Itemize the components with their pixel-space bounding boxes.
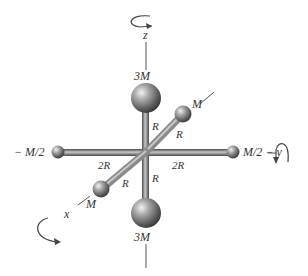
sphere-upper-right-M	[175, 106, 192, 123]
rigid-body-diagram: z x 3M 3M − M/2 M/2 − y M M R R R R 2R 2…	[0, 0, 308, 276]
x-axis-label: x	[64, 208, 69, 220]
sphere-bottom-3M	[131, 198, 161, 228]
mass-label-upper-right: M	[192, 98, 202, 110]
rod-label-bottom: R	[152, 173, 159, 184]
mass-label-lower-left: M	[86, 198, 96, 210]
sphere-right-M2	[227, 146, 240, 159]
z-axis-label: z	[143, 29, 148, 41]
rod-right	[146, 149, 232, 156]
rod-label-upper-right: R	[176, 129, 183, 140]
z-rotation-arrow-icon	[131, 16, 152, 29]
sphere-top-3M	[131, 83, 161, 113]
sphere-left-M2	[52, 146, 65, 159]
mass-label-bottom: 3M	[134, 231, 150, 243]
rod-left	[60, 149, 146, 156]
sphere-lower-left-M	[93, 181, 110, 198]
rod-label-lower-left: R	[122, 178, 129, 189]
mass-label-right: M/2 − y	[243, 146, 282, 158]
x-axis-far-line	[200, 92, 214, 104]
mass-label-left: − M/2	[14, 146, 44, 158]
rod-label-left: 2R	[98, 160, 110, 171]
rod-label-top: R	[152, 121, 159, 132]
mass-label-top: 3M	[134, 70, 150, 82]
x-rotation-arrow-icon	[38, 218, 61, 245]
rod-label-right: 2R	[172, 160, 184, 171]
